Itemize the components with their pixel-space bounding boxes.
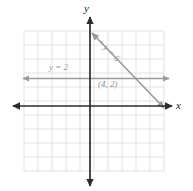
axis-label-y: y	[84, 2, 89, 14]
axis-label-x: x	[176, 99, 181, 111]
grid-lines	[24, 31, 164, 171]
line-label-y-equals-2: y = 2	[49, 62, 68, 72]
point-label-4-2: (4, 2)	[98, 79, 118, 89]
graph-canvas	[0, 0, 193, 191]
coordinate-plane-graph: y x y = 2 x + y = 6 (4, 2)	[0, 0, 193, 191]
